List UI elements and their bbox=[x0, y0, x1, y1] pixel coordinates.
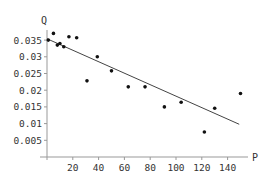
scatter-chart: 20406080100120140 0.0050.010.0150.020.02… bbox=[0, 0, 266, 180]
data-point bbox=[203, 130, 207, 134]
y-tick-label: 0.02 bbox=[19, 85, 42, 96]
x-ticks: 20406080100120140 bbox=[67, 157, 236, 173]
data-point bbox=[110, 69, 114, 73]
data-point bbox=[58, 42, 62, 46]
x-tick-label: 120 bbox=[193, 162, 210, 173]
x-tick-label: 40 bbox=[93, 162, 105, 173]
x-tick-label: 80 bbox=[144, 162, 156, 173]
data-point bbox=[213, 106, 217, 110]
axes: 20406080100120140 0.0050.010.0150.020.02… bbox=[13, 15, 258, 173]
data-point bbox=[46, 38, 50, 42]
data-point bbox=[143, 85, 147, 89]
y-ticks: 0.0050.010.0150.020.0250.030.035 bbox=[13, 35, 47, 146]
data-point bbox=[85, 79, 89, 83]
data-point bbox=[126, 85, 130, 89]
data-point bbox=[163, 105, 167, 109]
y-tick-label: 0.015 bbox=[13, 101, 42, 112]
x-tick-label: 20 bbox=[67, 162, 79, 173]
regression-line bbox=[47, 39, 239, 125]
data-point bbox=[239, 92, 243, 96]
data-point bbox=[62, 45, 66, 49]
x-tick-label: 60 bbox=[119, 162, 131, 173]
y-axis-label: Q bbox=[41, 15, 47, 26]
data-points bbox=[46, 32, 242, 134]
data-point bbox=[75, 36, 79, 40]
x-tick-label: 100 bbox=[167, 162, 184, 173]
x-axis-label: P bbox=[252, 152, 258, 163]
x-tick-label: 140 bbox=[219, 162, 236, 173]
y-tick-label: 0.005 bbox=[13, 135, 42, 146]
fit-line bbox=[47, 39, 239, 125]
y-tick-label: 0.01 bbox=[19, 118, 42, 129]
data-point bbox=[52, 32, 56, 36]
data-point bbox=[179, 100, 183, 104]
y-tick-label: 0.035 bbox=[13, 35, 42, 46]
data-point bbox=[67, 35, 71, 39]
y-tick-label: 0.025 bbox=[13, 68, 42, 79]
y-tick-label: 0.03 bbox=[19, 51, 42, 62]
data-point bbox=[96, 55, 100, 59]
